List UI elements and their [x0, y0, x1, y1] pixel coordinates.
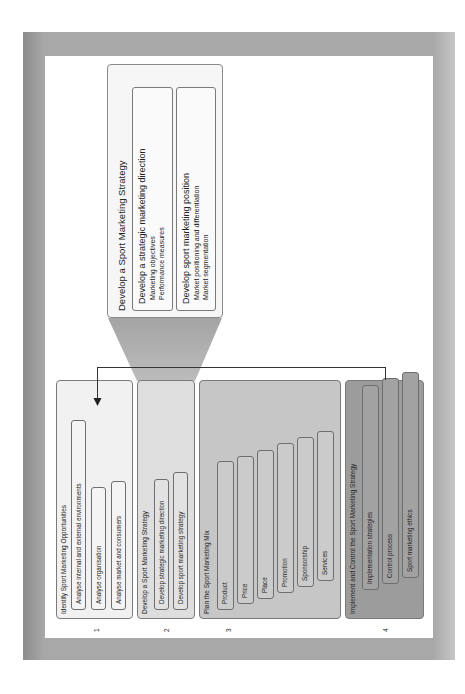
- feedback-line-vertical-1: [97, 367, 98, 398]
- stage-4-number: 4: [382, 628, 389, 632]
- stage-3-box: Plan the Sport Marketing Mix Product Pri…: [199, 380, 341, 619]
- stage-3-item: Sponsorship: [297, 437, 314, 587]
- stage-1-item: Analyse internal and external environmen…: [71, 420, 86, 610]
- stage-3-number: 3: [225, 628, 232, 632]
- arrowhead-icon: [93, 396, 102, 406]
- stage-4-item: Control process: [382, 378, 399, 584]
- callout-group-item: Market segmentation: [201, 94, 210, 304]
- stage-2-item: Develop sport marketing strategy: [173, 472, 188, 610]
- stage-2-number: 2: [163, 628, 170, 632]
- callout-group-item: Performance measures: [157, 94, 166, 304]
- stage-3-title: Plan the Sport Marketing Mix: [203, 531, 210, 614]
- feedback-line-top: [97, 367, 386, 368]
- callout-group-position: Develop sport marketing position Market …: [176, 87, 216, 311]
- stage-3-item: Place: [257, 450, 274, 599]
- callout-group-heading: Develop sport marketing position: [181, 94, 192, 304]
- stage-1-item: Analyse organisation: [91, 487, 106, 610]
- stage-2-box: Develop a Sport Marketing Strategy Devel…: [137, 380, 195, 619]
- stage-4-item: Sport marketing ethics: [402, 372, 419, 578]
- callout-group-item: Market positioning and differentiation: [192, 94, 201, 304]
- stage-3-item: Product: [217, 461, 234, 610]
- stage-4-item: Implementation strategies: [362, 385, 379, 590]
- stage-3-item: Services: [317, 431, 334, 581]
- feedback-line-vertical-4: [385, 368, 386, 380]
- diagram: Identify Sport Marketing Opportunities A…: [45, 56, 433, 638]
- stage-1-number: 1: [93, 628, 100, 632]
- callout-group-item: Marketing objectives: [148, 94, 157, 304]
- stage-1-title: Identify Sport Marketing Opportunities: [60, 505, 67, 614]
- stage-2-title: Develop a Sport Marketing Strategy: [141, 511, 148, 614]
- stage-2-item: Develop strategic marketing direction: [154, 479, 169, 610]
- stage-1-item: Analyse market and consumers: [111, 481, 126, 610]
- stage-4-title: Implement and Control the Sport Marketin…: [349, 464, 356, 614]
- stage-4-box: Implement and Control the Sport Marketin…: [345, 380, 424, 619]
- callout-group-direction: Develop a strategic marketing direction …: [132, 87, 173, 311]
- callout-group-heading: Develop a strategic marketing direction: [137, 94, 148, 304]
- stage-1-box: Identify Sport Marketing Opportunities A…: [56, 380, 133, 619]
- callout-box: Develop a Sport Marketing Strategy Devel…: [107, 64, 223, 318]
- stage-3-item: Price: [237, 456, 254, 604]
- stage-3-item: Promotion: [277, 443, 294, 593]
- callout-title: Develop a Sport Marketing Strategy: [116, 161, 127, 312]
